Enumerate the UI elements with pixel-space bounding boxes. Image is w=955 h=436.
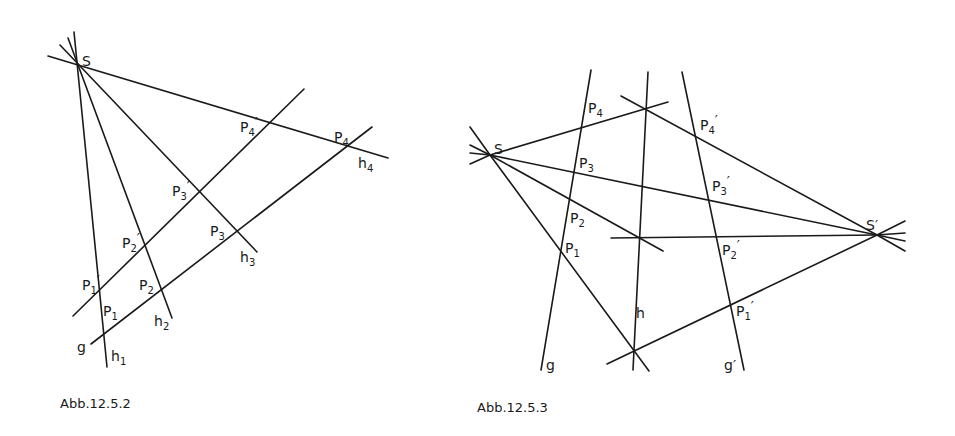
label-g: g: [77, 339, 86, 355]
label-g-prime: g′: [724, 357, 736, 373]
label-P1: P1: [103, 303, 118, 322]
label-P4: P4: [588, 100, 603, 119]
label-h2: h2: [154, 313, 169, 332]
caption-12-5-2: Abb.12.5.2: [60, 396, 131, 411]
ray-S-top: [490, 102, 668, 155]
label-P3-prime: P3′: [172, 178, 190, 202]
line-g-prime: [682, 72, 744, 370]
label-g: g: [546, 357, 555, 373]
label-P2: P2: [139, 277, 154, 296]
ray-S-P3: [490, 155, 877, 235]
label-S-prime: S′: [866, 217, 878, 233]
label-h1: h1: [111, 348, 126, 367]
label-P2: P2: [570, 210, 585, 229]
label-h: h: [636, 305, 645, 321]
label-S: S: [82, 53, 91, 69]
label-S: S: [494, 141, 503, 157]
line-h2: [68, 38, 172, 318]
label-h3: h3: [240, 249, 255, 268]
label-P3-prime: P3′: [712, 173, 730, 197]
ray-Sp-mid: [611, 235, 877, 238]
caption-12-5-3: Abb.12.5.3: [477, 400, 548, 415]
figure-12-5-3: S S′ P4 P3 P2 P1 P4′ P3′ P2′ P1′ h g g′ …: [470, 70, 905, 415]
label-P2-prime: P2′: [722, 237, 740, 261]
stub-s-4: [470, 155, 490, 164]
ray-Sp-top: [621, 96, 877, 235]
ray-S-P2: [490, 155, 663, 251]
line-g-prime: [73, 89, 304, 316]
label-P3: P3: [579, 155, 594, 174]
label-P4-prime: P4′: [240, 114, 258, 138]
ray-Sp-bottom: [607, 235, 877, 364]
figures-canvas: S P4′ P4 h4 P3′ P3 h3 P2′ P2 h2 P1′ P1 g…: [0, 0, 955, 436]
label-P4: P4: [334, 129, 349, 148]
label-P4-prime: P4′: [700, 112, 718, 136]
label-P2-prime: P2′: [122, 230, 140, 254]
label-h4: h4: [358, 155, 373, 174]
line-h3: [60, 45, 257, 252]
label-P1: P1: [565, 240, 580, 259]
ray-S-P1: [490, 155, 649, 371]
line-h: [633, 72, 648, 370]
label-P3: P3: [210, 223, 225, 242]
figure-12-5-2: S P4′ P4 h4 P3′ P3 h3 P2′ P2 h2 P1′ P1 g…: [48, 32, 388, 411]
